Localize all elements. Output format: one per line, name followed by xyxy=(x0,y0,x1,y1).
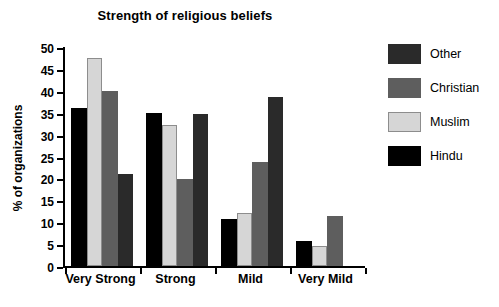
bar-hindu-very-strong xyxy=(71,108,87,266)
y-tick-label: 20 xyxy=(41,174,54,186)
y-tick xyxy=(57,70,63,72)
bar-group xyxy=(146,47,208,266)
x-axis-label-mild: Mild xyxy=(213,272,288,286)
y-tick-label: 0 xyxy=(47,262,54,274)
x-axis-label-very-strong: Very Strong xyxy=(63,272,138,286)
chart-container: Strength of religious beliefs % of organ… xyxy=(0,0,499,307)
bar-muslim-mild xyxy=(237,213,253,266)
y-tick-label: 10 xyxy=(41,218,54,230)
bar-group xyxy=(71,47,133,266)
bar-hindu-very-mild xyxy=(296,241,312,266)
y-tick-label: 30 xyxy=(41,131,54,143)
y-axis-title: % of organizations xyxy=(10,47,26,268)
legend-item-muslim[interactable]: Muslim xyxy=(388,111,498,133)
legend-swatch-hindu-icon xyxy=(388,146,421,166)
y-tick xyxy=(57,267,63,269)
legend-swatch-christian-icon xyxy=(388,78,421,98)
bar-christian-mild xyxy=(252,162,268,266)
y-tick-label: 15 xyxy=(41,196,54,208)
y-axis-title-text: % of organizations xyxy=(11,104,25,211)
legend-item-christian[interactable]: Christian xyxy=(388,77,498,99)
bar-hindu-strong xyxy=(146,113,162,266)
y-tick-label: 35 xyxy=(41,109,54,121)
bar-other-very-strong xyxy=(118,174,134,266)
legend-item-other[interactable]: Other xyxy=(388,43,498,65)
y-tick-label: 50 xyxy=(41,43,54,55)
bar-other-mild xyxy=(268,97,284,267)
chart-title: Strength of religious beliefs xyxy=(0,8,370,23)
legend-item-hindu[interactable]: Hindu xyxy=(388,145,498,167)
legend-swatch-other-icon xyxy=(388,44,421,64)
bar-muslim-very-mild xyxy=(312,246,328,266)
y-tick xyxy=(57,92,63,94)
y-tick xyxy=(57,136,63,138)
bar-christian-very-mild xyxy=(327,216,343,266)
legend-label: Christian xyxy=(430,81,479,95)
bar-christian-strong xyxy=(177,179,193,266)
bar-hindu-mild xyxy=(221,219,237,266)
y-tick xyxy=(57,48,63,50)
plot-area: 05101520253035404550 xyxy=(63,47,365,268)
y-tick-label: 5 xyxy=(47,240,54,252)
x-axis-label-very-mild: Very Mild xyxy=(288,272,363,286)
bar-group xyxy=(296,47,358,266)
x-axis-line xyxy=(63,266,365,268)
y-tick xyxy=(57,201,63,203)
y-tick xyxy=(57,179,63,181)
y-tick xyxy=(57,223,63,225)
y-tick-label: 45 xyxy=(41,65,54,77)
legend-swatch-muslim-icon xyxy=(388,112,421,132)
y-tick xyxy=(57,245,63,247)
y-tick xyxy=(57,114,63,116)
chart-legend: OtherChristianMuslimHindu xyxy=(388,43,498,179)
bar-christian-very-strong xyxy=(102,91,118,266)
bar-other-strong xyxy=(193,114,209,266)
x-tick xyxy=(365,268,367,274)
y-tick xyxy=(57,158,63,160)
legend-label: Other xyxy=(430,47,461,61)
legend-label: Hindu xyxy=(430,149,463,163)
bar-muslim-very-strong xyxy=(87,58,103,266)
legend-label: Muslim xyxy=(430,115,470,129)
y-tick-label: 25 xyxy=(41,153,54,165)
bar-muslim-strong xyxy=(162,125,178,266)
bar-series-group xyxy=(65,47,365,266)
bar-group xyxy=(221,47,283,266)
y-tick-label: 40 xyxy=(41,87,54,99)
x-axis-label-strong: Strong xyxy=(138,272,213,286)
